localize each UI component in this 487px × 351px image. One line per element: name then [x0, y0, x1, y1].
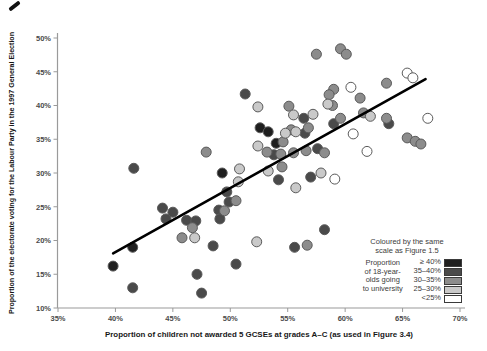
data-point [220, 206, 230, 216]
data-point [192, 269, 202, 279]
y-tick-label: 40% [36, 101, 51, 110]
data-point [330, 174, 340, 184]
legend-swatch [444, 268, 462, 276]
y-axis-ticks: 10%15%20%25%30%35%40%45%50% [36, 34, 58, 313]
y-tick-label: 20% [36, 236, 51, 245]
data-point [289, 110, 299, 120]
legend-title-line: scale as Figure 1.5 [352, 247, 462, 256]
data-point [128, 283, 138, 293]
y-tick-label: 35% [36, 135, 51, 144]
data-point [323, 99, 333, 109]
data-point [336, 113, 346, 123]
legend-swatch [444, 259, 462, 267]
x-tick-label: 55% [280, 314, 295, 323]
x-tick-label: 70% [452, 314, 467, 323]
x-tick-label: 40% [108, 314, 123, 323]
data-point [306, 172, 316, 182]
data-point [262, 147, 272, 157]
x-tick-label: 35% [50, 314, 65, 323]
data-point [240, 89, 250, 99]
legend-swatch [444, 295, 462, 303]
data-point [320, 148, 330, 158]
legend-swatch [444, 277, 462, 285]
data-point [187, 223, 197, 233]
y-tick-label: 45% [36, 68, 51, 77]
data-point [253, 102, 263, 112]
data-point [235, 164, 245, 174]
data-point [320, 225, 330, 235]
data-point [201, 147, 211, 157]
data-point [423, 113, 433, 123]
y-tick-label: 30% [36, 169, 51, 178]
y-tick-label: 15% [36, 270, 51, 279]
data-point [362, 146, 372, 156]
y-tick-label: 25% [36, 203, 51, 212]
data-point [217, 168, 227, 178]
data-point [299, 113, 309, 123]
legend-subtitle: Proportion of 18-year- olds going to uni… [352, 258, 413, 293]
data-point [231, 196, 241, 206]
legend-title: Coloured by the same scale as Figure 1.5 [352, 238, 462, 255]
legend-item: <25% [413, 294, 462, 303]
data-point [291, 183, 301, 193]
data-point [408, 73, 418, 83]
data-point [355, 93, 365, 103]
x-tick-label: 45% [165, 314, 180, 323]
data-point [129, 163, 139, 173]
data-point [231, 259, 241, 269]
data-point [208, 241, 218, 251]
data-point [274, 175, 284, 185]
data-point [303, 123, 313, 133]
trend-line [113, 79, 425, 253]
data-point [311, 49, 321, 59]
data-point [316, 168, 326, 178]
data-point [280, 128, 290, 138]
data-point [253, 141, 263, 151]
scatter-figure: 10%15%20%25%30%35%40%45%50% 35%40%45%50%… [0, 0, 487, 351]
legend-body: Proportion of 18-year- olds going to uni… [352, 258, 462, 303]
x-tick-label: 50% [223, 314, 238, 323]
data-point [346, 82, 356, 92]
y-tick-label: 50% [36, 34, 51, 43]
x-tick-label: 60% [338, 314, 353, 323]
data-point [190, 233, 200, 243]
data-point [308, 109, 318, 119]
legend-item-label: <25% [413, 294, 444, 303]
y-axis-label: Proportion of the electorate voting for … [7, 32, 16, 314]
data-point [341, 49, 351, 59]
x-tick-label: 65% [395, 314, 410, 323]
legend: Coloured by the same scale as Figure 1.5… [352, 238, 462, 303]
data-point [158, 203, 168, 213]
legend-swatch [444, 286, 462, 294]
data-point [416, 139, 426, 149]
data-point [302, 240, 312, 250]
legend-subtitle-line: to university [352, 285, 413, 294]
data-point [382, 78, 392, 88]
y-tick-label: 10% [36, 304, 51, 313]
data-point [382, 113, 392, 123]
data-point [277, 162, 287, 172]
x-axis-ticks: 35%40%45%50%55%60%65%70% [50, 308, 467, 323]
data-point [197, 288, 207, 298]
data-point [108, 261, 118, 271]
x-axis-label: Proportion of children not awarded 5 GCS… [105, 330, 414, 339]
data-point [177, 233, 187, 243]
data-point [263, 127, 273, 137]
data-point [291, 127, 301, 137]
data-point [348, 129, 358, 139]
data-point [290, 242, 300, 252]
data-point [252, 237, 262, 247]
legend-items: ≥ 40%35–40%30–35%25–30%<25% [413, 258, 462, 303]
data-point [324, 90, 334, 100]
